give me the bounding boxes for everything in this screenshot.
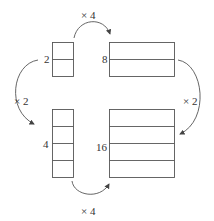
left-multiplier-label: × 2 xyxy=(14,96,28,107)
box-top-left xyxy=(53,43,74,77)
arrow-bottom xyxy=(72,181,109,194)
bottom-right-value: 16 xyxy=(96,142,107,153)
arrow-top xyxy=(74,22,110,38)
bottom-multiplier-label: × 4 xyxy=(81,206,95,217)
box-bottom-right xyxy=(110,110,175,178)
arrow-left xyxy=(16,60,38,124)
top-left-value: 2 xyxy=(44,54,50,65)
top-multiplier-label: × 4 xyxy=(81,10,95,21)
box-bottom-left xyxy=(53,110,74,178)
diagram-graphics xyxy=(0,0,214,221)
diagram: × 4 × 4 × 2 × 2 2 8 4 16 xyxy=(0,0,214,221)
bottom-left-value: 4 xyxy=(43,139,49,150)
box-top-right xyxy=(110,43,175,77)
right-multiplier-label: × 2 xyxy=(183,96,197,107)
top-right-value: 8 xyxy=(102,54,108,65)
